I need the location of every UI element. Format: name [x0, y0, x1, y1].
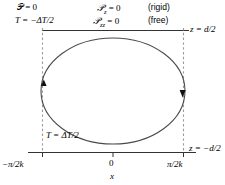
rigid-annotation-label: (rigid) [148, 3, 170, 12]
x-tick-label-center: 0 [109, 159, 114, 168]
bc-pressure-top-label: 𝒫 = 0 [17, 3, 37, 12]
z-bottom-label: z = −d/2 [189, 144, 221, 153]
bc-temperature-top-label: T = −ΔT/2 [15, 16, 54, 25]
bc-rigid-condition-label: 𝒫z = 0 [97, 3, 121, 15]
x-tick-label-right: π/2k [167, 160, 183, 169]
convection-cell-figure: 𝒫 = 0 T = −ΔT/2 𝒫z = 0 𝒫zz = 0 (rigid) (… [0, 0, 225, 185]
x-tick-label-left: −π/2k [2, 160, 24, 169]
x-axis-label: x [110, 172, 114, 181]
bc-temperature-bottom-label: T = ΔT/2 [46, 131, 79, 140]
z-top-label: z = d/2 [190, 25, 216, 34]
bc-free-condition-label: 𝒫zz = 0 [93, 16, 119, 28]
free-annotation-label: (free) [148, 16, 168, 25]
convection-roll-ellipse [41, 38, 185, 144]
